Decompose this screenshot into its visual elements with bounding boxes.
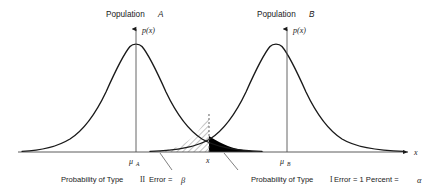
curve-population-a [22,44,262,151]
beta-leader-line [160,153,172,170]
beta-caption-tail: Error = [149,175,173,184]
tick-label-mu-a-subscript: A [135,161,140,167]
tick-label-mu-b: μ [279,157,284,166]
population-b-title-name: B [309,10,315,19]
population-b-title: Population [257,10,296,19]
tick-label-mu-b-subscript: B [287,161,291,167]
beta-caption: Probability of Type II Error = β [61,175,186,185]
x-axis-label: x [413,148,418,157]
tick-label-critical-value: x [205,156,210,165]
figure-container: Population A Population B p(x) p(x) x μ … [0,0,429,195]
y-axis-label-b: p(x) [292,26,306,35]
population-a-title: Population [106,10,145,19]
alpha-caption-tail: Error = 1 Percent = [334,175,399,184]
distribution-figure: Population A Population B p(x) p(x) x μ … [0,0,429,195]
beta-region-shading [139,114,209,152]
tick-label-mu-a: μ [128,157,133,166]
curve-population-b [150,44,404,151]
alpha-caption-text: Probability of Type [251,175,313,184]
beta-caption-numeral: II [140,175,146,184]
alpha-caption-numeral: I [330,175,333,184]
alpha-leader-line [224,153,238,170]
alpha-caption: Probability of Type I Error = 1 Percent … [251,175,422,185]
beta-caption-text: Probability of Type [61,175,123,184]
y-axis-label-a: p(x) [141,26,155,35]
alpha-caption-symbol: α [417,176,422,185]
beta-caption-symbol: β [180,176,186,185]
population-a-title-name: A [157,10,164,19]
